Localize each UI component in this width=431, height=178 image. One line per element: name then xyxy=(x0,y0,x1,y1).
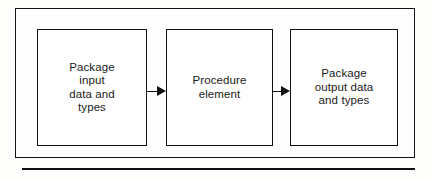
figure-root: Package input data and types Procedure e… xyxy=(0,0,431,178)
node-package-output: Package output data and types xyxy=(290,29,398,146)
horizontal-divider xyxy=(22,168,415,170)
node-procedure-element: Procedure element xyxy=(166,29,273,146)
arrow-head xyxy=(157,86,166,96)
arrow-head xyxy=(281,86,290,96)
flow-diagram: Package input data and types Procedure e… xyxy=(16,9,416,159)
arrow-input-to-procedure-icon xyxy=(147,86,166,96)
node-procedure-element-label: Procedure element xyxy=(193,74,247,101)
node-package-output-label: Package output data and types xyxy=(315,67,374,108)
figure-outer-frame: Package input data and types Procedure e… xyxy=(15,8,415,158)
arrow-procedure-to-output-icon xyxy=(273,86,290,96)
node-package-input: Package input data and types xyxy=(37,29,147,146)
node-package-input-label: Package input data and types xyxy=(69,61,115,115)
